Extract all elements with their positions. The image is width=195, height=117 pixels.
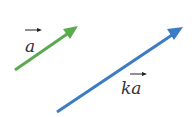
vector-ka [57,27,183,112]
label-a-text: a [25,36,35,56]
label-ka-text: ka [121,78,141,98]
vector-diagram: a ka [0,0,195,117]
label-ka: ka [121,72,147,98]
